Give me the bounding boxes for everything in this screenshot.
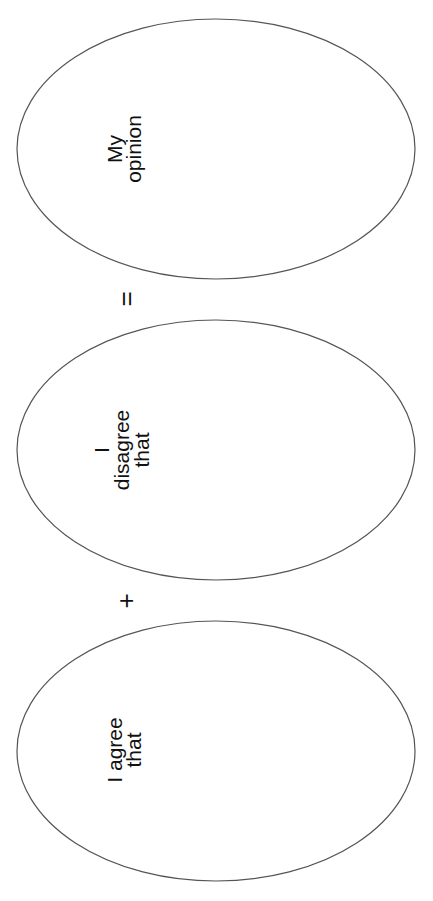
label-line: that <box>132 410 152 491</box>
ellipse-my-opinion <box>17 19 415 279</box>
label-my-opinion: My opinion <box>105 115 143 183</box>
diagram-canvas <box>0 0 433 901</box>
label-line: I <box>92 410 112 491</box>
label-i-agree-that: I agree that <box>105 717 143 782</box>
label-i-disagree-that: I disagree that <box>92 410 152 491</box>
label-line: that <box>124 717 143 782</box>
ellipse-i-disagree-that <box>17 320 415 580</box>
ellipse-i-agree-that <box>17 621 415 881</box>
label-line: opinion <box>124 115 143 183</box>
label-line: disagree <box>112 410 132 491</box>
equals-sign: = <box>113 291 139 306</box>
plus-sign: + <box>113 593 139 608</box>
